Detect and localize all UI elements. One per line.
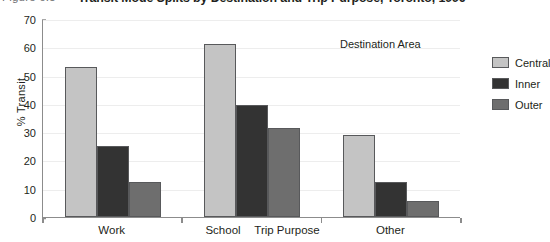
y-axis-title: % Transit: [15, 57, 27, 147]
x-axis-category-label-other: Other: [376, 224, 405, 236]
y-axis-tick-label: 20: [12, 155, 36, 167]
gridline: [43, 77, 460, 78]
x-axis-tick-mark: [181, 218, 183, 223]
figure-number-label: Figure 6.5: [2, 0, 56, 3]
y-axis-tick-label: 0: [12, 212, 36, 224]
x-axis-tick-mark: [42, 218, 44, 223]
legend-label-inner: Inner: [515, 78, 540, 90]
legend-swatch-central: [492, 57, 509, 68]
legend-swatch-outer: [492, 99, 509, 110]
legend-item-central[interactable]: Central: [492, 52, 550, 73]
x-axis-title: Trip Purpose: [254, 224, 319, 236]
bar-work-inner: [97, 146, 129, 217]
bar-other-central: [343, 135, 375, 217]
bar-school-central: [204, 44, 236, 217]
legend-item-outer[interactable]: Outer: [492, 94, 550, 115]
legend-label-central: Central: [515, 57, 550, 69]
x-axis-category-label-work: Work: [98, 224, 125, 236]
legend-title: Destination Area: [340, 38, 421, 50]
x-axis-tick-mark: [460, 218, 462, 223]
bar-work-outer: [129, 182, 161, 217]
x-axis-category-label-school: School: [205, 224, 240, 236]
bar-school-inner: [236, 105, 268, 217]
figure-header: Figure 6.5 Transit Mode Splits by Destin…: [0, 0, 550, 11]
legend: CentralInnerOuter: [492, 52, 550, 115]
figure-title: Transit Mode Splits by Destination and T…: [78, 0, 466, 5]
bar-other-inner: [375, 182, 407, 217]
legend-swatch-inner: [492, 78, 509, 89]
x-axis-tick-mark: [321, 218, 323, 223]
bar-work-central: [65, 67, 97, 217]
y-axis-tick-label: 70: [12, 14, 36, 26]
legend-item-inner[interactable]: Inner: [492, 73, 550, 94]
gridline: [43, 20, 460, 21]
bar-school-outer: [268, 128, 300, 217]
bar-other-outer: [407, 201, 439, 217]
figure-container: Figure 6.5 Transit Mode Splits by Destin…: [0, 0, 550, 242]
legend-label-outer: Outer: [515, 99, 543, 111]
y-axis-tick-label: 10: [12, 184, 36, 196]
y-axis-tick-label: 60: [12, 42, 36, 54]
